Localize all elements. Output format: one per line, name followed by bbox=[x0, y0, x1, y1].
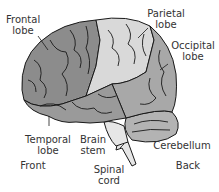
parietal-lobe-label-line1: Parietal bbox=[146, 8, 186, 19]
temporal-lobe-label: Temporal lobe bbox=[22, 134, 74, 156]
occipital-lobe-label-line2: lobe bbox=[170, 51, 216, 62]
brain-stem-label: Brain stem bbox=[76, 134, 110, 156]
brain-stem-label-line2: stem bbox=[76, 145, 110, 156]
spinal-cord-label-line2: cord bbox=[90, 175, 128, 186]
parietal-lobe-label: Parietal lobe bbox=[146, 8, 186, 30]
frontal-lobe-label: Frontal lobe bbox=[6, 14, 40, 36]
brain-stem-label-line1: Brain bbox=[76, 134, 110, 145]
temporal-lobe-label-line2: lobe bbox=[22, 145, 74, 156]
occipital-lobe-label-line1: Occipital bbox=[170, 40, 216, 51]
cerebellum-label: Cerebellum bbox=[152, 140, 212, 151]
back-label: Back bbox=[174, 160, 202, 171]
parietal-lobe-label-line2: lobe bbox=[146, 19, 186, 30]
spinal-cord-label: Spinal cord bbox=[90, 164, 128, 186]
front-label: Front bbox=[18, 160, 48, 171]
frontal-lobe-label-line1: Frontal bbox=[6, 14, 40, 25]
brain-diagram: Frontal lobe Parietal lobe Occipital lob… bbox=[0, 0, 219, 192]
frontal-lobe-label-line2: lobe bbox=[6, 25, 40, 36]
temporal-lobe-label-line1: Temporal bbox=[22, 134, 74, 145]
occipital-lobe-label: Occipital lobe bbox=[170, 40, 216, 62]
spinal-cord-label-line1: Spinal bbox=[90, 164, 128, 175]
